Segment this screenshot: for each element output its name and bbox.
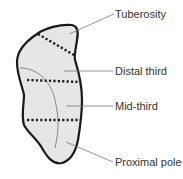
label-distal-third: Distal third <box>115 65 167 77</box>
label-proximal-pole: Proximal pole <box>115 156 182 168</box>
scaphoid-diagram: Tuberosity Distal third Mid-third Proxim… <box>0 0 183 179</box>
bone-outline <box>17 25 82 163</box>
label-tuberosity: Tuberosity <box>115 8 166 20</box>
tuberosity-leader <box>69 14 114 34</box>
scaphoid-illustration <box>0 0 183 179</box>
label-mid-third: Mid-third <box>115 100 158 112</box>
